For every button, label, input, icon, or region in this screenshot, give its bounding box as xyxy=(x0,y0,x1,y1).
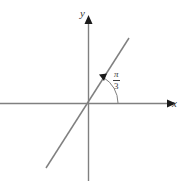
y-axis-label: y xyxy=(80,8,85,19)
coordinate-plane-figure: y x π 3 xyxy=(0,0,185,191)
angle-measure-label: π 3 xyxy=(113,70,120,91)
graph-canvas xyxy=(0,0,185,191)
y-axis-arrowhead xyxy=(85,15,93,24)
x-axis-label: x xyxy=(172,98,177,109)
angle-numerator: π xyxy=(113,70,120,81)
angle-denominator: 3 xyxy=(113,81,120,91)
